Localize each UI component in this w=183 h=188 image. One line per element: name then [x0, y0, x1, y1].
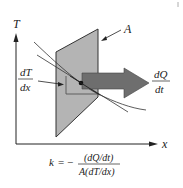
flow-denominator: dt — [155, 83, 165, 95]
flow-numerator: dQ — [154, 68, 168, 80]
formula-equals-minus: = − — [58, 156, 73, 168]
formula-denominator: A(dT/dx) — [78, 166, 115, 178]
area-label: A — [123, 22, 132, 36]
x-axis-label: x — [161, 137, 168, 151]
heat-conduction-diagram: T x A dT dx dQ dt k = − (dQ/dt) A(dT/dx) — [0, 0, 183, 188]
formula: k = − (dQ/dt) A(dT/dx) — [49, 152, 120, 178]
gradient-numerator: dT — [20, 66, 33, 78]
y-axis-label: T — [13, 17, 21, 31]
formula-numerator: (dQ/dt) — [84, 152, 114, 164]
gradient-denominator: dx — [20, 81, 31, 93]
y-axis — [14, 33, 19, 144]
area-leader-arrow — [101, 30, 121, 41]
formula-lhs: k — [49, 156, 55, 168]
x-axis — [16, 142, 158, 147]
